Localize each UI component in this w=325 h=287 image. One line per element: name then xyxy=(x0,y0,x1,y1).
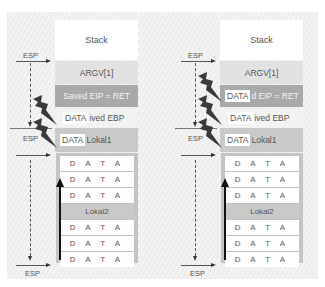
lokal2-row: Lokal2 xyxy=(225,204,299,219)
lokal2-row: Lokal2 xyxy=(60,204,134,219)
data-row: D A T A xyxy=(60,252,134,267)
saved-ebp-cell: DATA ived EBP xyxy=(55,108,138,127)
saved-ebp-label: ived EBP xyxy=(89,113,124,123)
esp-pointer-mid xyxy=(181,155,213,156)
local-buffer-frame: D A T A D A T A D A T A Lokal2 D A T A D… xyxy=(221,153,303,263)
lokal1-cell: DATA Lokal1 xyxy=(220,128,303,152)
saved-eip-cell: Saved EIP = RET xyxy=(55,85,138,107)
lokal1-label: Lokal1 xyxy=(251,135,276,145)
dashed-line xyxy=(30,160,31,256)
stack-diagram-after: Stack ARGV[1] DATA d EIP = RET DATA ived… xyxy=(165,0,325,287)
stack-title: Stack xyxy=(55,20,138,60)
arrow-right-icon xyxy=(46,59,51,63)
arrow-up-icon xyxy=(221,178,229,187)
data-row: D A T A xyxy=(225,188,299,203)
stack-diagram-before: Stack ARGV[1] Saved EIP = RET DATA ived … xyxy=(0,0,163,287)
arrow-down-icon xyxy=(193,256,197,261)
arrow-right-icon xyxy=(211,153,216,157)
local-buffer-frame: D A T A D A T A D A T A Lokal2 D A T A D… xyxy=(56,153,138,263)
data-row: D A T A xyxy=(60,220,134,235)
data-row: D A T A xyxy=(225,220,299,235)
data-row: D A T A xyxy=(60,172,134,187)
esp-label-bottom: ESP xyxy=(190,269,205,278)
lightning-icon xyxy=(196,118,222,148)
lightning-icon xyxy=(31,118,57,148)
data-overwrite-eip: DATA xyxy=(225,90,250,102)
esp-pointer-mid xyxy=(16,155,48,156)
lokal1-label: Lokal1 xyxy=(86,135,111,145)
data-row: D A T A xyxy=(60,156,134,171)
data-overwrite-lokal1: DATA xyxy=(225,134,250,146)
argv-cell: ARGV[1] xyxy=(220,61,303,84)
arrow-right-icon xyxy=(211,59,216,63)
arrow-down-icon xyxy=(28,256,32,261)
data-overwrite-ebp: DATA xyxy=(63,112,88,124)
data-overwrite-lokal1: DATA xyxy=(60,134,85,146)
lokal1-cell: DATA Lokal1 xyxy=(55,128,138,152)
overflow-direction-arrow xyxy=(59,186,61,260)
data-row: D A T A xyxy=(225,252,299,267)
arrow-right-icon xyxy=(46,263,51,267)
saved-ebp-cell: DATA ived EBP xyxy=(220,108,303,127)
esp-pointer-bottom xyxy=(16,265,48,266)
esp-label-top: ESP xyxy=(188,51,203,60)
saved-eip-label: d EIP = RET xyxy=(251,91,298,101)
esp-label-bottom: ESP xyxy=(25,269,40,278)
saved-eip-cell: DATA d EIP = RET xyxy=(220,85,303,107)
data-row: D A T A xyxy=(225,236,299,251)
esp-pointer-bottom xyxy=(181,265,213,266)
esp-label-top: ESP xyxy=(23,51,38,60)
esp-pointer-top xyxy=(181,61,213,62)
stack-title: Stack xyxy=(220,20,303,60)
data-overwrite-ebp: DATA xyxy=(228,112,253,124)
saved-ebp-label: ived EBP xyxy=(254,113,289,123)
overflow-direction-arrow xyxy=(224,186,226,260)
argv-cell: ARGV[1] xyxy=(55,61,138,84)
data-row: D A T A xyxy=(225,156,299,171)
arrow-up-icon xyxy=(56,178,64,187)
esp-pointer-top xyxy=(16,61,48,62)
dashed-line xyxy=(195,160,196,256)
data-row: D A T A xyxy=(60,236,134,251)
arrow-right-icon xyxy=(46,153,51,157)
data-row: D A T A xyxy=(60,188,134,203)
arrow-right-icon xyxy=(211,263,216,267)
data-row: D A T A xyxy=(225,172,299,187)
